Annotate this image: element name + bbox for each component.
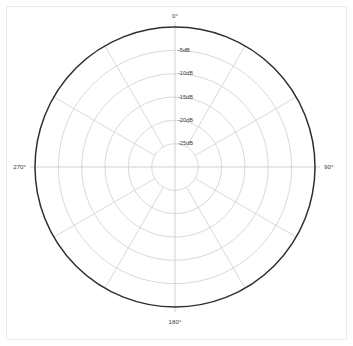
polar-plot-canvas: 0° 90° 180° 270° -5dB -10dB -15dB -20dB … [0, 0, 353, 346]
polar-plot-figure: 0° 90° 180° 270° -5dB -10dB -15dB -20dB … [0, 0, 353, 346]
angle-label-0: 0° [172, 12, 178, 19]
angle-label-270: 270° [13, 163, 26, 170]
radial-label-minus5: -5dB [178, 47, 190, 53]
radial-label-minus20: -20dB [178, 117, 193, 123]
angle-label-180: 180° [169, 318, 182, 325]
radial-label-minus15: -15dB [178, 94, 193, 100]
angle-label-90: 90° [324, 163, 334, 170]
radial-label-minus10: -10dB [178, 70, 193, 76]
radial-label-minus25: -25dB [178, 140, 193, 146]
